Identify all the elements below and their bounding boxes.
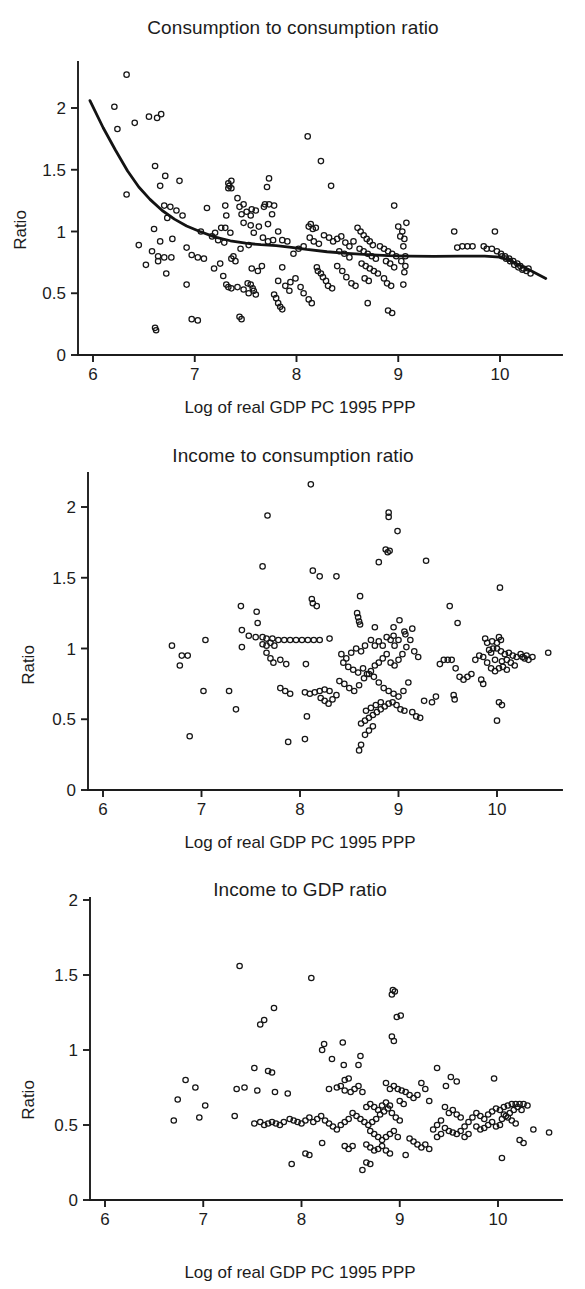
scatter-point bbox=[288, 279, 293, 284]
scatter-point bbox=[203, 637, 208, 642]
chart-panel-income-to-consumption: Income to consumption ratio 00.511.52678… bbox=[0, 430, 585, 860]
scatter-point bbox=[283, 283, 288, 288]
x-tick-label: 9 bbox=[395, 1210, 404, 1229]
scatter-point bbox=[237, 963, 242, 968]
scatter-point bbox=[349, 650, 354, 655]
scatter-point bbox=[327, 688, 332, 693]
scatter-point bbox=[340, 268, 345, 273]
y-tick-label: 0 bbox=[67, 781, 76, 800]
scatter-point bbox=[201, 256, 206, 261]
scatter-point bbox=[305, 134, 310, 139]
scatter-point bbox=[342, 681, 347, 686]
scatter-point bbox=[258, 1022, 263, 1027]
y-axis-label: Ratio bbox=[19, 645, 38, 685]
scatter-point bbox=[259, 263, 264, 268]
scatter-point bbox=[136, 242, 141, 247]
scatter-point bbox=[195, 255, 200, 260]
x-axis-label: Log of real GDP PC 1995 PPP bbox=[184, 833, 415, 852]
scatter-point bbox=[177, 663, 182, 668]
scatter-point bbox=[169, 255, 174, 260]
scatter-point bbox=[402, 270, 407, 275]
scatter-point bbox=[391, 625, 396, 630]
scatter-point bbox=[308, 482, 313, 487]
scatter-point bbox=[469, 671, 474, 676]
scatter-point bbox=[346, 1116, 351, 1121]
y-axis-label: Ratio bbox=[19, 1080, 38, 1120]
lowess-fit-line bbox=[90, 101, 546, 279]
scatter-point bbox=[264, 650, 269, 655]
scatter-point bbox=[395, 528, 400, 533]
scatter-point bbox=[434, 1065, 439, 1070]
scatter-point bbox=[115, 126, 120, 131]
scatter-point bbox=[265, 513, 270, 518]
scatter-point bbox=[163, 173, 168, 178]
scatter-point bbox=[399, 258, 404, 263]
scatter-point bbox=[423, 1086, 428, 1091]
scatter-point bbox=[246, 633, 251, 638]
scatter-point bbox=[278, 657, 283, 662]
scatter-point bbox=[442, 1104, 447, 1109]
scatter-svg-2: Income to GDP ratio 00.511.52678910 Log … bbox=[0, 860, 585, 1289]
scatter-point bbox=[396, 224, 401, 229]
scatter-point bbox=[372, 625, 377, 630]
scatter-point bbox=[396, 657, 401, 662]
y-tick-label: 0 bbox=[57, 346, 66, 365]
scatter-point bbox=[254, 609, 259, 614]
y-tick-label: 1.5 bbox=[52, 569, 76, 588]
scatter-point bbox=[387, 1151, 392, 1156]
scatter-point bbox=[546, 650, 551, 655]
scatter-point bbox=[221, 273, 226, 278]
scatter-point bbox=[396, 637, 401, 642]
y-tick-label: 1 bbox=[57, 223, 66, 242]
scatter-point bbox=[358, 742, 363, 747]
scatter-point bbox=[334, 574, 339, 579]
scatter-point bbox=[513, 1121, 518, 1126]
x-tick-label: 6 bbox=[98, 800, 107, 819]
panel-title: Income to consumption ratio bbox=[172, 445, 413, 466]
scatter-point bbox=[241, 220, 246, 225]
x-tick-label: 7 bbox=[197, 800, 206, 819]
scatter-point bbox=[157, 183, 162, 188]
x-tick-label: 8 bbox=[297, 1210, 306, 1229]
scatter-point bbox=[149, 249, 154, 254]
scatter-point bbox=[269, 212, 274, 217]
scatter-points bbox=[171, 963, 552, 1172]
scatter-point bbox=[347, 244, 352, 249]
scatter-point bbox=[391, 203, 396, 208]
scatter-point bbox=[228, 230, 233, 235]
scatter-point bbox=[239, 644, 244, 649]
scatter-point bbox=[356, 748, 361, 753]
scatter-point bbox=[164, 271, 169, 276]
scatter-point bbox=[224, 213, 229, 218]
scatter-point bbox=[180, 213, 185, 218]
scatter-point bbox=[383, 1080, 388, 1085]
scatter-point bbox=[362, 643, 367, 648]
scatter-point bbox=[179, 653, 184, 658]
scatter-point bbox=[287, 288, 292, 293]
x-tick-label: 10 bbox=[489, 1210, 508, 1229]
scatter-point bbox=[314, 603, 319, 608]
scatter-point bbox=[301, 291, 306, 296]
scatter-point bbox=[162, 203, 167, 208]
scatter-point bbox=[376, 559, 381, 564]
scatter-point bbox=[246, 291, 251, 296]
y-tick-label: 0 bbox=[69, 1191, 78, 1210]
scatter-point bbox=[255, 1088, 260, 1093]
y-tick-label: 1 bbox=[69, 1041, 78, 1060]
scatter-point bbox=[340, 1040, 345, 1045]
figure-canvas: Consumption to consumption ratio 00.511.… bbox=[0, 0, 585, 1289]
scatter-point bbox=[162, 255, 167, 260]
scatter-point bbox=[401, 282, 406, 287]
scatter-point bbox=[334, 692, 339, 697]
scatter-point bbox=[397, 1118, 402, 1123]
scatter-point bbox=[327, 636, 332, 641]
scatter-point bbox=[395, 1134, 400, 1139]
scatter-point bbox=[284, 661, 289, 666]
scatter-point bbox=[282, 637, 287, 642]
scatter-point bbox=[318, 158, 323, 163]
scatter-point bbox=[360, 1089, 365, 1094]
y-tick-label: 2 bbox=[57, 99, 66, 118]
scatter-point bbox=[189, 252, 194, 257]
scatter-point bbox=[378, 700, 383, 705]
scatter-point bbox=[317, 637, 322, 642]
